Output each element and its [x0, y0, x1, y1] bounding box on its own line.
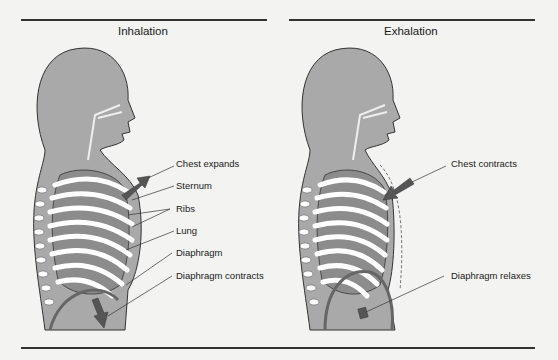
label-chest-contracts: Chest contracts — [451, 158, 517, 169]
exhalation-figure — [299, 48, 446, 330]
inhalation-figure — [34, 48, 174, 330]
label-diaphragm-relaxes: Diaphragm relaxes — [451, 270, 531, 281]
label-diaphragm-contracts: Diaphragm contracts — [176, 270, 264, 281]
label-lung: Lung — [176, 225, 197, 236]
label-chest-expands: Chest expands — [176, 158, 239, 169]
label-diaphragm: Diaphragm — [176, 247, 222, 258]
label-ribs: Ribs — [176, 203, 195, 214]
respiration-illustration — [0, 0, 558, 360]
label-sternum: Sternum — [176, 180, 212, 191]
